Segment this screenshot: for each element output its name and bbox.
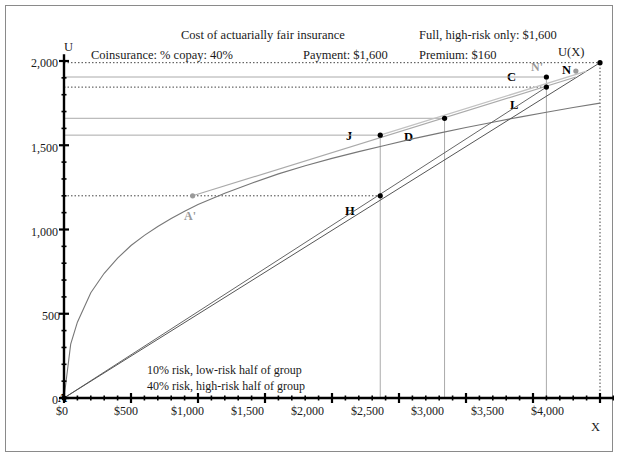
data-point-j[interactable]: [378, 133, 383, 138]
chord-line-a-l: [64, 87, 546, 398]
data-point-a-prime[interactable]: [190, 193, 195, 198]
data-point-n-prime[interactable]: [573, 69, 578, 74]
data-point-h[interactable]: [378, 193, 383, 198]
gray-segment-aprime-nprime: [193, 77, 576, 196]
utility-curve: [64, 103, 600, 398]
data-point-a[interactable]: [61, 395, 66, 400]
data-point-n[interactable]: [597, 60, 602, 65]
gray-segment-j-nprime: [380, 71, 586, 135]
chord-line-a-n: [64, 63, 600, 398]
data-point-l[interactable]: [544, 85, 549, 90]
chart-screenshot: Cost of actuarially fair insurance Coins…: [0, 0, 622, 461]
plot-area: [6, 6, 614, 453]
chart-frame: Cost of actuarially fair insurance Coins…: [5, 5, 613, 452]
data-point-c[interactable]: [544, 74, 549, 79]
data-point-d[interactable]: [442, 116, 447, 121]
